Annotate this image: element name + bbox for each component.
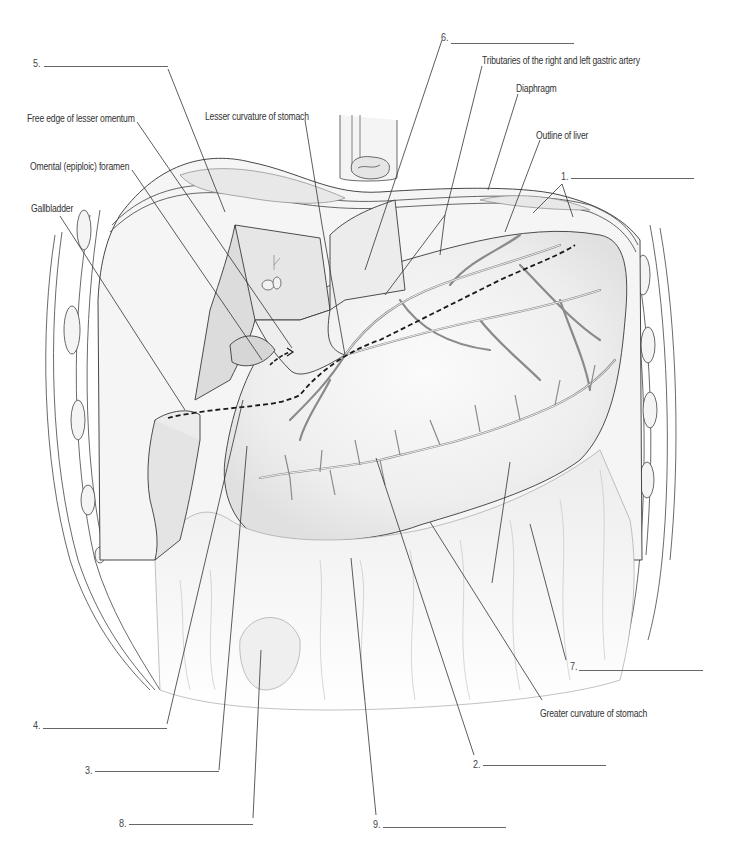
label-outline-liver: Outline of liver	[536, 130, 588, 142]
blank-line-6[interactable]	[451, 43, 574, 44]
blank-line-9[interactable]	[383, 827, 506, 828]
label-lesser-curvature: Lesser curvature of stomach	[205, 111, 309, 123]
blank-number-7: 7.	[570, 661, 578, 673]
blank-line-1[interactable]	[571, 178, 694, 179]
anatomy-illustration	[0, 0, 735, 859]
blank-number-9: 9.	[373, 819, 381, 831]
blank-line-2[interactable]	[483, 765, 606, 766]
label-tributaries: Tributaries of the right and left gastri…	[482, 55, 640, 67]
blank-line-7[interactable]	[579, 670, 703, 671]
blank-number-1: 1.	[561, 171, 569, 183]
label-omental-foramen: Omental (epiploic) foramen	[30, 161, 129, 173]
blank-number-3: 3.	[85, 765, 93, 777]
blank-number-8: 8.	[119, 818, 127, 830]
blank-line-8[interactable]	[129, 824, 253, 825]
blank-line-3[interactable]	[95, 771, 219, 772]
blank-number-6: 6.	[441, 32, 449, 44]
label-gallbladder: Gallbladder	[31, 203, 73, 215]
blank-line-4[interactable]	[43, 728, 167, 729]
label-greater-curvature: Greater curvature of stomach	[540, 708, 647, 720]
blank-line-5[interactable]	[44, 66, 168, 67]
blank-number-5: 5.	[33, 58, 41, 70]
esophagus	[340, 115, 397, 181]
label-diaphragm: Diaphragm	[516, 83, 557, 95]
blank-number-4: 4.	[33, 720, 41, 732]
label-free-edge-lesser-omentum: Free edge of lesser omentum	[27, 113, 135, 125]
blank-number-2: 2.	[473, 759, 481, 771]
